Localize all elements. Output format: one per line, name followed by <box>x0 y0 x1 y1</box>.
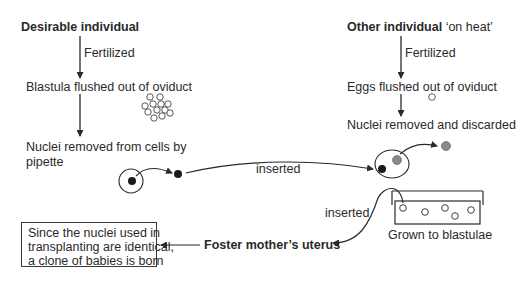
right-step-eggs: Eggs flushed out of oviduct <box>347 80 497 95</box>
conclusion-line2: transplanting are identical, <box>28 240 156 254</box>
blastula-cluster-icon <box>142 94 173 121</box>
right-step-nuclei: Nuclei removed and discarded <box>347 118 516 133</box>
extracted-nucleus-icon <box>174 170 182 178</box>
left-step-nuclei-line1: Nuclei removed from cells by <box>26 140 186 155</box>
left-step-blastula: Blastula flushed out of oviduct <box>26 80 192 95</box>
inserted-label-2: inserted <box>325 206 369 221</box>
inserted-label-1: inserted <box>256 162 300 177</box>
culture-dish-icon <box>392 191 483 224</box>
conclusion-box: Since the nuclei used in transplanting a… <box>21 222 157 267</box>
dish-label: Grown to blastulae <box>388 228 492 243</box>
left-fertilized-label: Fertilized <box>84 46 135 61</box>
discarded-nucleus-icon <box>442 142 451 151</box>
right-fertilized-label: Fertilized <box>405 46 456 61</box>
discard-nucleus-arrow <box>400 144 437 154</box>
right-title-bold: Other individual <box>347 20 442 34</box>
conclusion-line3: a clone of babies is born <box>28 254 156 268</box>
right-title-rest: ‘on heat’ <box>446 20 493 34</box>
right-title: Other individual ‘on heat’ <box>347 20 493 35</box>
uterus-label: Foster mother’s uterus <box>204 238 340 253</box>
left-title: Desirable individual <box>21 20 139 35</box>
recipient-egg-icon <box>375 150 409 178</box>
left-step-nuclei-line2: pipette <box>26 155 64 170</box>
conclusion-line1: Since the nuclei used in <box>28 226 156 240</box>
